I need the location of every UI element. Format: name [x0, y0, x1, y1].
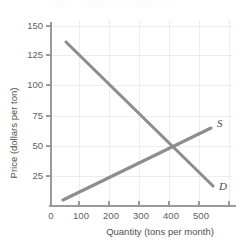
- horizontal-gridlines: [51, 26, 233, 176]
- x-tick-label-300: 300: [133, 210, 149, 221]
- y-tick-label-125: 125: [27, 49, 43, 60]
- x-tick-label-100: 100: [73, 210, 89, 221]
- x-tick-label-400: 400: [163, 210, 179, 221]
- supply-demand-chart: 150 125 100 75 50 25 0 100 200 300 400 5…: [0, 0, 240, 242]
- x-tick-label-500: 500: [193, 210, 209, 221]
- y-axis-title: Price (dollars per ton): [8, 88, 19, 179]
- x-axis-title: Quantity (tons per month): [106, 226, 214, 237]
- y-tick-label-25: 25: [32, 170, 43, 181]
- y-tick-label-150: 150: [27, 20, 43, 31]
- y-tick-label-75: 75: [32, 110, 43, 121]
- supply-curve-label: S: [217, 117, 223, 129]
- chart-canvas: 150 125 100 75 50 25 0 100 200 300 400 5…: [0, 0, 240, 242]
- vertical-gridlines: [79, 20, 229, 205]
- y-tick-label-100: 100: [27, 79, 43, 90]
- y-tick-label-50: 50: [32, 140, 43, 151]
- x-tick-label-200: 200: [103, 210, 119, 221]
- y-axis-tick-marks: [46, 26, 51, 176]
- demand-curve-label: D: [218, 180, 227, 192]
- x-tick-label-0: 0: [48, 210, 53, 221]
- x-axis-tick-marks: [79, 201, 229, 206]
